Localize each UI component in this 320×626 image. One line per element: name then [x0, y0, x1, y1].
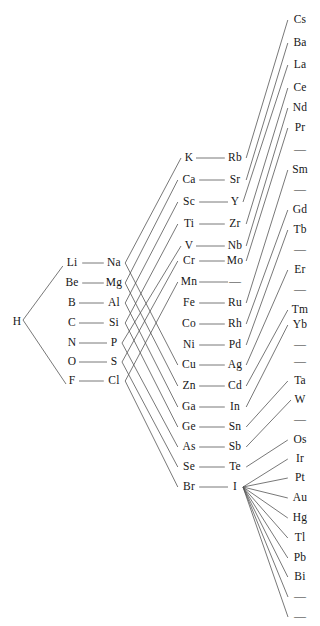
element-label: Mn: [181, 276, 197, 288]
element-label: N: [68, 337, 77, 349]
element-label: Mg: [106, 277, 122, 289]
cross-period-line: [246, 310, 288, 386]
element-label: Ti: [184, 218, 194, 230]
element-label: Au: [293, 492, 307, 504]
element-label: S: [111, 356, 118, 368]
cross-period-line: [122, 246, 181, 343]
element-label: Ce: [293, 82, 306, 94]
element-label: Zn: [182, 380, 195, 392]
element-label: La: [294, 59, 307, 71]
cross-period-line: [125, 158, 181, 263]
cross-period-line: [243, 478, 288, 487]
cross-period-line: [246, 270, 288, 365]
cross-period-line: [243, 487, 288, 597]
element-label: —: [294, 356, 306, 368]
element-label: Fe: [183, 297, 195, 309]
element-label: Sr: [230, 174, 241, 186]
element-label: Hg: [293, 512, 307, 524]
element-label: Yb: [293, 319, 307, 331]
element-label: I: [233, 481, 237, 493]
connection-lines-layer: [0, 0, 320, 626]
element-label: Rh: [228, 318, 242, 330]
element-label: Sb: [229, 441, 242, 453]
element-label: Tl: [295, 532, 306, 544]
cross-period-line: [246, 325, 288, 407]
element-label: Pr: [295, 122, 306, 134]
cross-period-line: [125, 202, 178, 303]
cross-period-line: [125, 381, 178, 487]
element-label: Er: [294, 264, 305, 276]
cross-period-line: [122, 362, 178, 467]
element-label: H: [13, 316, 22, 328]
element-label: Ba: [293, 37, 306, 49]
element-label: —: [294, 414, 306, 426]
element-label: —: [294, 339, 306, 351]
element-label: Li: [67, 257, 78, 269]
element-label: Al: [108, 297, 120, 309]
cross-period-line: [125, 282, 178, 381]
cross-period-line: [125, 180, 178, 283]
cross-period-line: [246, 128, 288, 261]
element-label: —: [294, 611, 306, 623]
element-label: Sc: [183, 196, 195, 208]
cross-period-line: [125, 283, 178, 386]
element-label: Ga: [182, 401, 196, 413]
cross-period-line: [243, 65, 288, 202]
element-label: F: [69, 375, 76, 387]
cross-period-line: [246, 170, 288, 303]
cross-period-line: [246, 381, 288, 427]
element-label: Br: [183, 481, 195, 493]
cross-period-line: [246, 43, 288, 180]
element-label: —: [294, 144, 306, 156]
element-label: Nd: [293, 102, 307, 114]
element-label: Rb: [228, 152, 242, 164]
cross-period-line: [243, 487, 288, 617]
element-label: Ni: [183, 339, 195, 351]
cross-period-line: [246, 108, 288, 246]
cross-period-line: [246, 230, 288, 345]
element-label: K: [185, 152, 194, 164]
cross-period-line: [243, 487, 288, 518]
cross-period-line: [125, 323, 178, 427]
element-label: Gd: [293, 204, 307, 216]
element-label: Te: [229, 461, 241, 473]
element-label: Ca: [182, 174, 195, 186]
element-label: —: [294, 284, 306, 296]
element-label: P: [111, 337, 118, 349]
element-label: Zr: [229, 218, 240, 230]
element-label: C: [68, 317, 76, 329]
element-label: O: [68, 356, 77, 368]
element-label: Pt: [295, 472, 305, 484]
element-label: Cl: [108, 375, 119, 387]
element-label: Cr: [183, 255, 195, 267]
element-label: —: [294, 184, 306, 196]
element-label: Ge: [182, 421, 196, 433]
element-label: Cs: [294, 14, 307, 26]
element-label: —: [229, 276, 241, 288]
element-label: Ir: [296, 453, 304, 465]
element-label: Pb: [294, 552, 307, 564]
element-label: B: [68, 297, 76, 309]
element-label: Sn: [229, 421, 242, 433]
element-label: Ru: [228, 297, 242, 309]
cross-period-line: [246, 20, 288, 158]
element-label: Be: [65, 277, 78, 289]
element-label: Na: [107, 257, 121, 269]
element-label: Tb: [293, 224, 306, 236]
element-label: Bi: [294, 571, 305, 583]
element-label: Os: [293, 434, 306, 446]
element-label: —: [294, 591, 306, 603]
cross-period-line: [243, 487, 288, 558]
element-label: Sm: [292, 164, 308, 176]
element-label: Se: [183, 461, 195, 473]
cross-period-line: [243, 487, 288, 498]
cross-period-line: [246, 400, 291, 447]
element-label: Co: [182, 318, 196, 330]
element-label: As: [182, 441, 195, 453]
element-label: Cu: [182, 359, 196, 371]
element-label: Tm: [292, 304, 308, 316]
element-label: Y: [231, 196, 240, 208]
element-label: Si: [109, 317, 119, 329]
element-label: Pd: [229, 339, 242, 351]
cross-period-line: [246, 210, 288, 324]
